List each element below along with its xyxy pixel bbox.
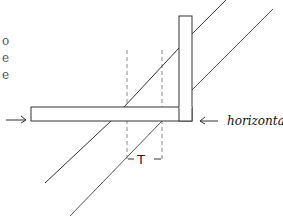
left-arrow-icon [6, 116, 26, 123]
vertical-bar [179, 16, 192, 121]
thickness-label: T [136, 152, 145, 167]
angle-diagram: T horizontal [0, 0, 283, 217]
horizontal-label: horizontal [227, 114, 283, 128]
horizontal-pointer-arrow-icon [200, 117, 218, 124]
diagonal-line-1 [45, 0, 226, 183]
horizontal-bar [31, 107, 192, 121]
